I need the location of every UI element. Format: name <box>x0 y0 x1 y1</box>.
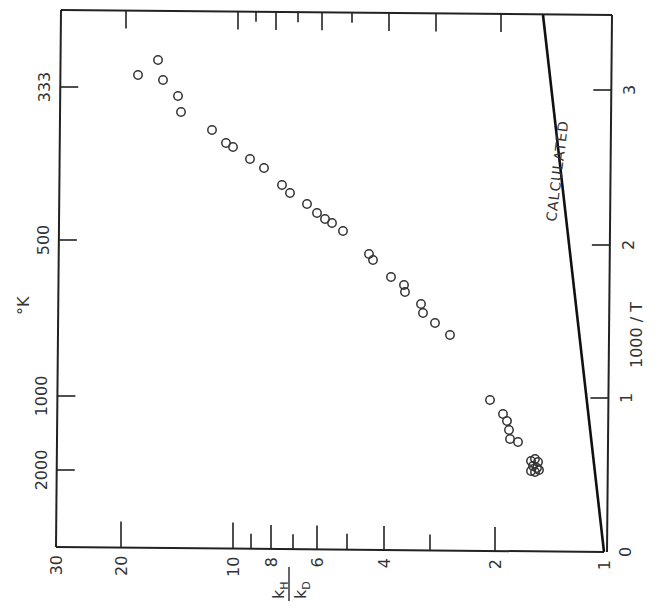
tick-label: 30 <box>47 555 66 575</box>
tick-label: 6 <box>308 557 327 567</box>
ratio-axis-label: kH kD <box>269 567 313 601</box>
calculated-line <box>543 15 604 552</box>
calculated-label: CALCULATED <box>543 119 571 222</box>
data-point <box>174 92 182 100</box>
data-point <box>134 71 142 79</box>
tick-label: 10 <box>224 557 243 577</box>
data-point <box>313 209 321 217</box>
tick-label: 20 <box>112 556 131 576</box>
data-point <box>229 143 237 151</box>
ratio-denominator: kD <box>291 581 313 599</box>
data-point <box>278 181 286 189</box>
data-point <box>154 56 162 64</box>
tick-label: 333 <box>35 72 54 103</box>
data-point <box>159 76 167 84</box>
data-point <box>177 108 185 116</box>
data-point <box>417 300 425 308</box>
tick-label: 1 <box>595 560 614 570</box>
data-point <box>303 200 311 208</box>
data-point <box>246 155 254 163</box>
tick-label: 2000 <box>32 450 51 491</box>
tick-label: 8 <box>262 557 281 567</box>
data-point <box>339 227 347 235</box>
data-point <box>387 273 395 281</box>
top-axis-label: °K <box>14 296 33 315</box>
data-point <box>260 164 268 172</box>
data-point <box>419 309 427 317</box>
plot-frame <box>56 10 612 552</box>
tick-label: 500 <box>34 225 53 256</box>
tick-label: 0 <box>616 547 635 557</box>
data-point <box>486 396 494 404</box>
tick-label: 2 <box>486 559 505 569</box>
ratio-numerator: kH <box>269 581 291 599</box>
data-point <box>431 319 439 327</box>
x-axis-label: 1000 / T <box>627 302 646 368</box>
data-point <box>503 417 511 425</box>
temperature-axis-ticks: 33350010002000 <box>32 72 79 491</box>
tick-label: 1 <box>617 393 636 403</box>
tick-label: 3 <box>620 85 639 95</box>
chart: 30201086421 33350010002000 3210 CALCULAT… <box>0 0 659 614</box>
data-point <box>286 189 294 197</box>
data-point <box>505 426 513 434</box>
data-point <box>506 435 514 443</box>
data-point <box>365 250 373 258</box>
data-point <box>208 126 216 134</box>
data-point <box>328 219 336 227</box>
tick-label: 2 <box>619 240 638 250</box>
data-points <box>134 56 543 476</box>
data-point <box>369 256 377 264</box>
tick-label: 1000 <box>32 376 51 417</box>
data-point <box>514 438 522 446</box>
tick-label: 4 <box>375 558 394 568</box>
data-point <box>446 331 454 339</box>
